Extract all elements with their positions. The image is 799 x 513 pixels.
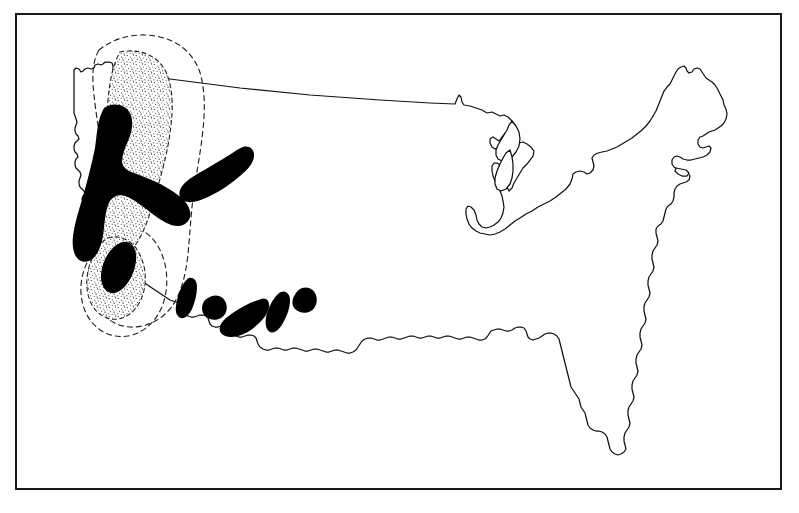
distribution-map xyxy=(0,0,799,513)
figure-container xyxy=(0,0,799,513)
